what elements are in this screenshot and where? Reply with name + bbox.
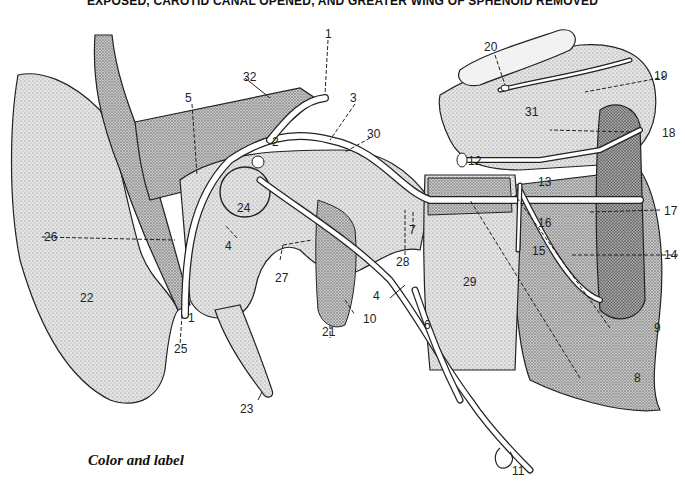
label-3: 3: [350, 92, 357, 104]
label-27: 27: [275, 272, 288, 284]
label-1-lower: 1: [188, 312, 195, 324]
label-7: 7: [409, 224, 416, 236]
label-9: 9: [654, 322, 661, 334]
label-17: 17: [664, 205, 677, 217]
label-5: 5: [185, 92, 192, 104]
label-12: 12: [468, 155, 481, 167]
label-21: 21: [322, 326, 335, 338]
label-30: 30: [367, 128, 380, 140]
label-24: 24: [237, 202, 250, 214]
label-13: 13: [538, 176, 551, 188]
instruction-caption: Color and label: [88, 452, 184, 469]
label-1: 1: [325, 28, 332, 40]
label-25: 25: [174, 343, 187, 355]
label-16: 16: [538, 217, 551, 229]
anatomical-illustration: [0, 0, 685, 484]
label-4-upper: 4: [225, 240, 232, 252]
label-22: 22: [80, 292, 93, 304]
label-10: 10: [363, 313, 376, 325]
label-31: 31: [525, 106, 538, 118]
label-14: 14: [664, 249, 677, 261]
label-20: 20: [484, 41, 497, 53]
label-18: 18: [662, 127, 675, 139]
label-2: 2: [272, 136, 279, 148]
label-8: 8: [634, 372, 641, 384]
label-26: 26: [44, 231, 57, 243]
label-11: 11: [512, 465, 524, 477]
label-32: 32: [243, 71, 256, 83]
label-23: 23: [240, 403, 253, 415]
label-19: 19: [654, 70, 667, 82]
label-15: 15: [532, 245, 545, 257]
label-4-lower: 4: [373, 290, 380, 302]
label-28: 28: [396, 256, 409, 268]
label-6: 6: [424, 319, 431, 331]
styloid-process-23: [215, 305, 273, 397]
label-29: 29: [463, 276, 476, 288]
